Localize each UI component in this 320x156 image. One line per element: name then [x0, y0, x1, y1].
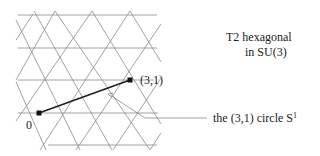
circle-label: the (3,1) circle S1	[213, 111, 297, 125]
title-line-1: T2 hexagonal	[226, 30, 292, 44]
point-3-1	[128, 78, 133, 83]
title-line-2: in SU(3)	[245, 45, 287, 59]
point-label: (3,1)	[140, 73, 163, 87]
origin-label: 0	[26, 118, 32, 132]
circle-label-superscript: 1	[293, 111, 297, 120]
circle-label-text: the (3,1) circle S	[213, 111, 293, 125]
origin-point	[37, 111, 42, 116]
vector-3-1	[37, 78, 133, 116]
leader-line	[108, 93, 207, 118]
